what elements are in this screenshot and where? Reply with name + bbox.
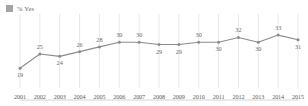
x-tick-label-2010: 2010 bbox=[193, 92, 205, 102]
x-tick-label-2015: 2015 bbox=[292, 92, 304, 102]
data-label-2013: 30 bbox=[255, 45, 261, 52]
data-label-2008: 29 bbox=[156, 48, 162, 55]
data-point-2007 bbox=[138, 41, 141, 44]
data-label-2010: 30 bbox=[196, 31, 202, 38]
x-tick-label-2007: 2007 bbox=[133, 92, 145, 102]
x-axis-tick-labels: 2001200220032004200520062007200820092010… bbox=[0, 92, 308, 104]
data-point-2001 bbox=[19, 67, 22, 70]
x-tick-label-2001: 2001 bbox=[14, 92, 26, 102]
data-label-2006: 30 bbox=[116, 31, 122, 38]
data-point-2008 bbox=[158, 43, 161, 46]
data-label-2011: 30 bbox=[215, 45, 221, 52]
x-tick-label-2011: 2011 bbox=[213, 92, 225, 102]
data-point-2009 bbox=[177, 43, 180, 46]
data-point-2013 bbox=[257, 41, 260, 44]
x-tick-label-2008: 2008 bbox=[153, 92, 165, 102]
data-label-2003: 24 bbox=[57, 59, 63, 66]
data-label-2007: 30 bbox=[136, 31, 142, 38]
data-point-2006 bbox=[118, 41, 121, 44]
x-tick-label-2005: 2005 bbox=[93, 92, 105, 102]
data-label-2015: 31 bbox=[295, 43, 301, 50]
plot-svg: 192524262830302929303032303331 bbox=[0, 14, 308, 88]
data-label-2005: 28 bbox=[96, 36, 102, 43]
line-chart: % Yes 192524262830302929303032303331 200… bbox=[0, 0, 308, 106]
legend-swatch-percent-yes bbox=[6, 5, 13, 12]
x-tick-label-2002: 2002 bbox=[34, 92, 46, 102]
x-tick-label-2003: 2003 bbox=[54, 92, 66, 102]
data-point-2002 bbox=[38, 53, 41, 56]
data-label-2009: 29 bbox=[176, 48, 182, 55]
data-point-2003 bbox=[58, 55, 61, 58]
plot-area: 192524262830302929303032303331 bbox=[0, 14, 308, 88]
data-label-2004: 26 bbox=[76, 41, 82, 48]
data-point-2011 bbox=[217, 41, 220, 44]
data-point-2014 bbox=[277, 34, 280, 37]
data-point-2012 bbox=[237, 36, 240, 39]
x-tick-label-2009: 2009 bbox=[173, 92, 185, 102]
x-tick-label-2004: 2004 bbox=[74, 92, 86, 102]
data-point-2004 bbox=[78, 50, 81, 53]
data-label-2002: 25 bbox=[37, 43, 43, 50]
x-tick-label-2012: 2012 bbox=[232, 92, 244, 102]
data-point-2015 bbox=[297, 38, 300, 41]
data-point-2010 bbox=[197, 41, 200, 44]
x-axis: 2001200220032004200520062007200820092010… bbox=[0, 88, 308, 106]
data-label-2014: 33 bbox=[275, 24, 281, 31]
data-point-2005 bbox=[98, 45, 101, 48]
data-label-2012: 32 bbox=[235, 26, 241, 33]
x-tick-label-2014: 2014 bbox=[272, 92, 284, 102]
data-label-2001: 19 bbox=[17, 71, 23, 78]
legend-label-percent-yes: % Yes bbox=[17, 4, 34, 13]
x-tick-label-2013: 2013 bbox=[252, 92, 264, 102]
x-tick-label-2006: 2006 bbox=[113, 92, 125, 102]
chart-legend: % Yes bbox=[6, 4, 34, 13]
